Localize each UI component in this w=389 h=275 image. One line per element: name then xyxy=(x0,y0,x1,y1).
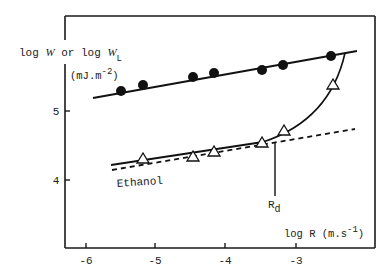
x-tick-label: -4 xyxy=(218,255,232,267)
data-point xyxy=(326,51,336,61)
data-point xyxy=(257,65,267,75)
y-tick-label: 4 xyxy=(53,175,60,187)
data-point xyxy=(138,80,148,90)
x-tick-label: -5 xyxy=(148,255,161,267)
data-point xyxy=(278,60,288,70)
ethanol-dashed-line xyxy=(112,129,355,170)
x-tick-label: -3 xyxy=(289,255,302,267)
y-tick-label: 5 xyxy=(53,106,60,118)
log-wl-points xyxy=(137,79,339,163)
ethanol-label: Ethanol xyxy=(116,175,163,190)
y-axis-unit: (mJ.m-2) xyxy=(70,67,119,82)
x-tick-label: -6 xyxy=(79,255,92,267)
data-point xyxy=(116,86,126,96)
data-point xyxy=(209,68,219,78)
data-point xyxy=(208,146,220,156)
chart-figure: -6 -5 -4 -3 5 4 log W or log WL (mJ.m-2)… xyxy=(0,0,389,275)
log-w-fit-line xyxy=(93,51,357,98)
data-point xyxy=(188,72,198,82)
data-point xyxy=(278,125,290,135)
y-axis-label: log W or log WL xyxy=(19,46,122,64)
data-point xyxy=(137,153,149,163)
rd-label: Rd xyxy=(268,199,281,215)
data-point xyxy=(327,79,339,89)
x-axis-label: log R (m.s-1) xyxy=(284,225,364,240)
